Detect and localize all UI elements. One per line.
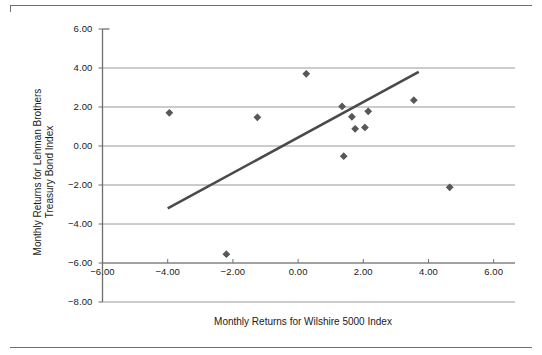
- data-point-marker: [411, 97, 417, 103]
- data-point-marker: [365, 108, 371, 114]
- y-axis-title-line-2: Treasury Bond Index: [44, 62, 56, 282]
- x-axis-title: Monthly Returns for Wilshire 5000 Index: [103, 316, 503, 327]
- y-tick-label: 0.00: [51, 140, 93, 151]
- x-tick-label: 2.00: [340, 266, 386, 277]
- x-tick-label: 0.00: [275, 266, 321, 277]
- y-tick-label: −2.00: [51, 179, 93, 190]
- data-point-marker: [166, 110, 172, 116]
- data-point-marker: [352, 126, 358, 132]
- trendline-segment: [168, 72, 419, 209]
- y-tick-label: −4.00: [51, 218, 93, 229]
- x-tick-label: 4.00: [406, 266, 452, 277]
- y-tick-label: −8.00: [51, 296, 93, 307]
- x-tick-label: 6.00: [471, 266, 517, 277]
- data-point-marker: [362, 124, 368, 130]
- x-tick-label: −2.00: [210, 266, 256, 277]
- data-point-marker: [341, 153, 347, 159]
- y-tick-label: 2.00: [51, 101, 93, 112]
- y-tick-label: 6.00: [51, 23, 93, 34]
- data-point-marker: [339, 103, 345, 109]
- x-tick-label: −6.00: [80, 266, 126, 277]
- data-points-group: [166, 71, 453, 258]
- data-point-marker: [349, 114, 355, 120]
- y-tick-label: 4.00: [51, 62, 93, 73]
- y-axis-title-line-1: Monthly Returns for Lehman Brothers: [32, 62, 44, 282]
- data-point-marker: [303, 71, 309, 77]
- trendline: [168, 72, 419, 209]
- x-tick-label: −4.00: [145, 266, 191, 277]
- data-point-marker: [223, 251, 229, 257]
- axes-group: [103, 29, 516, 302]
- scatter-plot: 6.004.002.000.00−2.00−4.00−6.00−8.00 −6.…: [0, 0, 542, 355]
- data-point-marker: [254, 114, 260, 120]
- tick-marks-group: [99, 29, 494, 302]
- y-axis-title: Monthly Returns for Lehman Brothers Trea…: [32, 62, 56, 282]
- figure-container: 6.004.002.000.00−2.00−4.00−6.00−8.00 −6.…: [0, 0, 542, 355]
